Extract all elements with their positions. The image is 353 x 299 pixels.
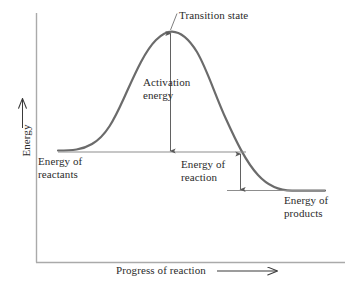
energy-of-products-label-line1: Energy of <box>284 194 328 206</box>
energy-of-reaction-label-line2: reaction <box>181 171 225 184</box>
energy-of-reactants-label: Energy ofreactants <box>38 155 82 181</box>
activation-energy-label-line2: energy <box>143 89 190 102</box>
energy-of-products-label-line2: products <box>284 207 328 220</box>
y-axis-label: Energy <box>20 111 33 171</box>
axis-lines <box>36 13 345 263</box>
energy-of-reaction-label-line1: Energy of <box>181 158 225 170</box>
activation-energy-label-line1: Activation <box>143 76 190 88</box>
energy-of-reactants-label-line1: Energy of <box>38 155 82 167</box>
diagram-canvas <box>0 0 353 299</box>
activation-energy-label: Activationenergy <box>143 76 190 102</box>
energy-of-products-label: Energy ofproducts <box>284 194 328 220</box>
energy-of-reaction-label: Energy ofreaction <box>181 158 225 184</box>
transition-state-leader-line <box>171 14 178 31</box>
transition-state-label: Transition state <box>179 9 248 22</box>
x-axis-label: Progress of reaction <box>116 264 206 277</box>
energy-of-reactants-label-line2: reactants <box>38 168 82 181</box>
energy-diagram: Transition state Activationenergy Energy… <box>0 0 353 299</box>
